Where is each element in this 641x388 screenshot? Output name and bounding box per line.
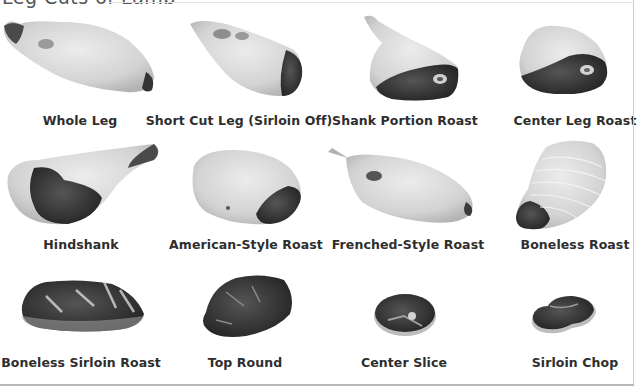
frenched-style-roast-image — [326, 146, 482, 226]
frame-right-border — [633, 0, 634, 386]
american-style-roast-image — [186, 144, 304, 226]
boneless-sirloin-roast-image — [16, 276, 146, 334]
cut-label-center-leg-roast: Center Leg Roast — [475, 113, 641, 128]
top-round-image — [196, 272, 296, 340]
title-rule — [108, 2, 633, 3]
cut-label-sirloin-chop: Sirloin Chop — [475, 355, 641, 370]
shank-portion-roast-image — [352, 11, 462, 103]
center-slice-image — [372, 290, 438, 338]
hindshank-image — [4, 140, 160, 226]
short-cut-leg-image — [186, 16, 306, 98]
frame-bottom-border — [0, 384, 634, 386]
center-leg-roast-image — [515, 18, 611, 94]
cut-label-boneless-roast: Boneless Roast — [475, 237, 641, 252]
whole-leg-image — [2, 16, 158, 96]
sirloin-chop-image — [528, 292, 598, 336]
boneless-roast-image — [512, 137, 612, 231]
cut-label-center-slice: Center Slice — [304, 355, 504, 370]
